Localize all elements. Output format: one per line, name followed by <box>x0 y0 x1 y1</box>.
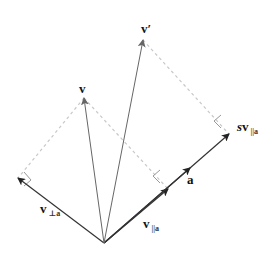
vector-a <box>104 168 190 243</box>
label-v: v <box>79 82 86 95</box>
projection-line-v-to-perp <box>18 98 84 178</box>
label-v-prime-text: v′ <box>141 21 151 36</box>
label-s-v-par-a: sv||a <box>237 120 258 133</box>
label-v-par-a-main: v <box>143 216 150 231</box>
label-v-par-a: v||a <box>143 217 159 230</box>
label-v-perp-a: v⊥a <box>40 202 60 215</box>
vector-diagram: v v′ v⊥a v||a a sv||a <box>0 0 274 255</box>
vector-v <box>84 98 104 243</box>
vector-v-perp-a <box>18 178 104 243</box>
label-s-v-par-a-main: v <box>242 119 249 134</box>
right-angle-mark-par <box>153 170 160 183</box>
label-v-perp-a-main: v <box>40 201 47 216</box>
projection-line-vprime-to-spar <box>143 40 229 134</box>
label-a: a <box>187 173 194 186</box>
vector-v-prime <box>104 40 143 243</box>
label-v-par-a-sub: ||a <box>152 224 160 233</box>
diagram-graphics <box>0 0 274 255</box>
label-v-prime: v′ <box>141 22 151 35</box>
projection-line-v-to-par <box>84 98 168 189</box>
label-v-perp-a-sub: ⊥a <box>49 209 61 218</box>
label-s-v-par-a-sub: ||a <box>251 127 259 136</box>
label-v-text: v <box>79 81 86 96</box>
label-a-text: a <box>187 172 194 187</box>
